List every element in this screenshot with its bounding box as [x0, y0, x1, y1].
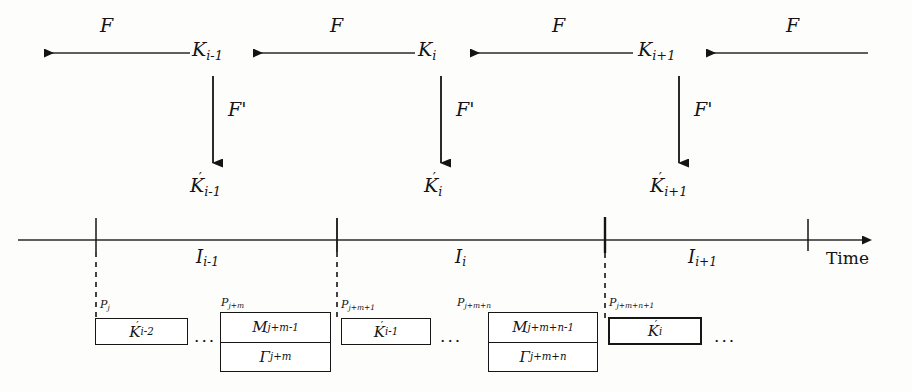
- derivation-label-2: F': [456, 100, 474, 119]
- block-cell-bottom: Γj+m: [221, 342, 330, 372]
- block-m-gamma-j-plus-m-plus-n: Mj+m+n-1 Γj+m+n: [488, 312, 598, 372]
- block-cell-top: K′i-1: [342, 319, 430, 344]
- block-cell-bottom: Γj+m+n: [489, 342, 597, 372]
- block-k-prime-i: K′i: [608, 317, 702, 345]
- chain-edge-label-4: F: [786, 16, 799, 35]
- derived-node-k-prime-i: K′i: [424, 176, 442, 199]
- block-k-prime-i-minus-1: K′i-1: [341, 318, 431, 345]
- chain-edge-label-3: F: [552, 16, 565, 35]
- chain-edge-label-1: F: [100, 16, 113, 35]
- pointer-label-j-plus-m: Pj+m: [221, 297, 244, 310]
- chain-node-k-i-minus-1: Ki-1: [192, 40, 223, 63]
- pointer-label-j-plus-m-plus-n-plus-1: Pj+m+n+1: [609, 297, 654, 310]
- chain-node-k-i-plus-1: Ki+1: [638, 40, 675, 63]
- pointer-label-j-plus-m-plus-n: Pj+m+n: [457, 297, 491, 310]
- interval-label-i-minus-1: Ii-1: [196, 248, 219, 269]
- block-k-prime-i-minus-2: K′i-2: [95, 318, 188, 345]
- ellipsis-2: ...: [440, 328, 462, 345]
- chain-edge-label-2: F: [330, 16, 343, 35]
- chain-node-k-i: Ki: [418, 40, 436, 63]
- derivation-label-1: F': [228, 100, 246, 119]
- time-axis-label: Time: [826, 250, 869, 267]
- interval-label-i: Ii: [455, 248, 466, 269]
- ellipsis-1: ...: [194, 328, 216, 345]
- derived-node-k-prime-i-minus-1: K′i-1: [190, 176, 221, 199]
- figure-canvas: F F F F Ki-1 Ki Ki+1 F' F' F' K′i-1 K′i …: [0, 0, 912, 392]
- ellipsis-3: ...: [714, 328, 736, 345]
- block-cell-top: Mj+m+n-1: [489, 313, 597, 342]
- pointer-label-j: Pj: [100, 299, 110, 312]
- pointer-label-j-plus-m-plus-1: Pj+m+1: [341, 299, 375, 312]
- block-cell-top: K′i: [610, 319, 700, 343]
- block-cell-top: K′i-2: [96, 319, 187, 344]
- interval-label-i-plus-1: Ii+1: [688, 248, 717, 269]
- derivation-label-3: F': [694, 100, 712, 119]
- derived-node-k-prime-i-plus-1: K′i+1: [650, 176, 687, 199]
- block-cell-top: Mj+m-1: [221, 313, 330, 342]
- block-m-gamma-j-plus-m: Mj+m-1 Γj+m: [220, 312, 331, 372]
